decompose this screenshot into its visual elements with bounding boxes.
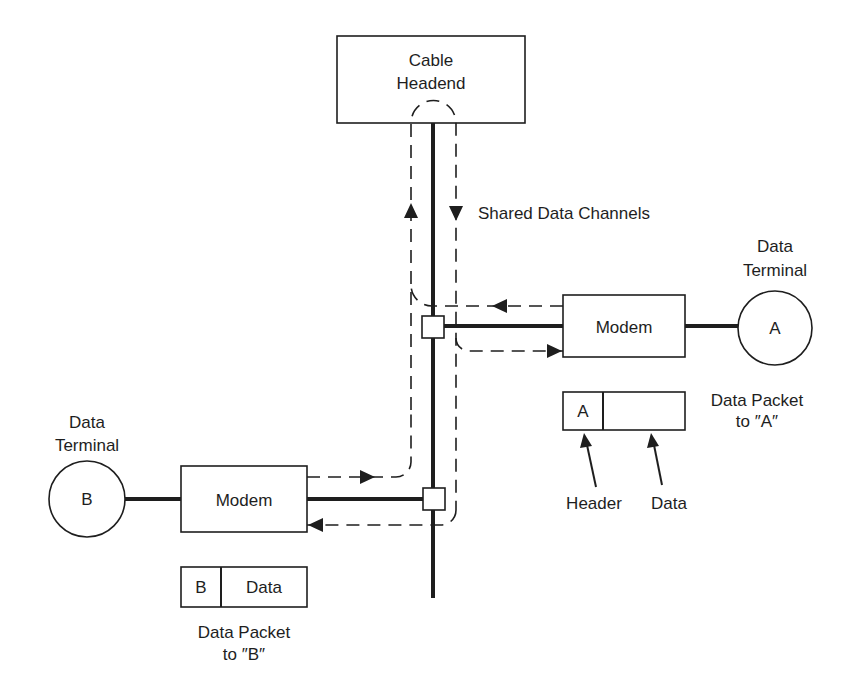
headend-label-line2: Headend xyxy=(396,74,465,93)
modem-b-upstream-arrow-icon xyxy=(360,470,375,484)
terminal-a: A Data Terminal xyxy=(685,237,812,365)
modem-a-upstream-arrow-icon xyxy=(492,299,507,313)
modem-a-downstream-arrow-icon xyxy=(547,344,562,358)
packet-a-caption-line1: Data Packet xyxy=(711,391,804,410)
terminal-a-label-line1: Data xyxy=(757,237,793,256)
terminal-b: B Data Terminal xyxy=(49,413,181,537)
packet-a-header: A xyxy=(577,402,589,421)
data-pointer-label: Data xyxy=(651,494,687,513)
data-pointer-line xyxy=(654,445,662,485)
cable-headend: Cable Headend xyxy=(337,36,525,123)
modem-a-branch: Modem xyxy=(411,285,685,358)
terminal-a-id: A xyxy=(769,319,781,338)
packet-b-caption-line2: to ″B″ xyxy=(223,645,265,664)
terminal-b-id: B xyxy=(81,490,92,509)
tap-upper xyxy=(422,316,444,338)
header-pointer-line xyxy=(587,445,596,487)
packet-b-header: B xyxy=(195,578,206,597)
terminal-b-label-line1: Data xyxy=(69,413,105,432)
modem-a-label: Modem xyxy=(596,318,653,337)
header-pointer-arrow-icon xyxy=(580,433,592,448)
packet-b: B Data Data Packet to ″B″ xyxy=(181,567,307,664)
header-pointer-label: Header xyxy=(566,494,622,513)
headend-label-line1: Cable xyxy=(409,51,453,70)
terminal-b-label-line2: Terminal xyxy=(55,436,119,455)
terminal-a-label-line2: Terminal xyxy=(743,261,807,280)
modem-b-upstream-path xyxy=(307,410,411,477)
network-diagram: Cable Headend Shared Data Channels Modem… xyxy=(0,0,857,688)
shared-channels-label: Shared Data Channels xyxy=(478,204,650,223)
modem-a-downstream-path xyxy=(456,338,563,351)
packet-a-caption-line2: to ″A″ xyxy=(736,412,778,431)
downstream-arrow-icon xyxy=(449,206,463,221)
packet-b-data: Data xyxy=(246,578,282,597)
packet-a: A Data Packet to ″A″ Header Data xyxy=(563,391,804,513)
data-pointer-arrow-icon xyxy=(647,433,659,448)
modem-b-downstream-arrow-icon xyxy=(308,518,323,532)
modem-b-branch: Modem xyxy=(181,410,456,532)
modem-b-label: Modem xyxy=(216,491,273,510)
upstream-arrow-icon xyxy=(404,203,418,218)
packet-b-caption-line1: Data Packet xyxy=(198,623,291,642)
tap-lower xyxy=(423,488,445,510)
